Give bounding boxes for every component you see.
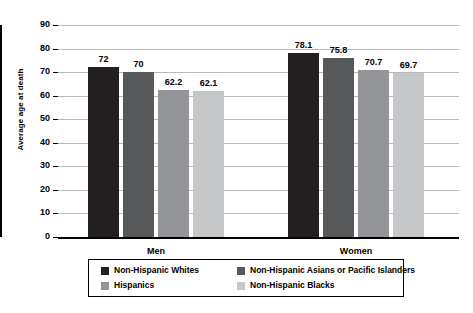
legend-item[interactable]: Non-Hispanic Asians or Pacific Islanders (237, 266, 415, 275)
y-axis-tick-label: 30 (18, 161, 50, 170)
y-axis-tick-label: 50 (18, 114, 50, 123)
legend-swatch-icon (237, 282, 245, 290)
bar-chart: Average age at death 0102030405060708090… (0, 0, 473, 313)
bar (123, 72, 154, 237)
x-axis-group-label: Men (58, 246, 254, 256)
legend-item[interactable]: Non-Hispanic Whites (101, 266, 199, 275)
y-axis-tick (53, 237, 58, 238)
legend-swatch-icon (237, 267, 245, 275)
bar-value-label: 70 (115, 59, 162, 69)
x-axis-group-label: Women (258, 246, 454, 256)
y-axis-tick-label: 60 (18, 91, 50, 100)
bar (358, 70, 389, 237)
bar (323, 58, 354, 237)
legend-swatch-icon (101, 282, 109, 290)
bar-value-label: 62.1 (185, 78, 232, 88)
y-axis-tick-label: 70 (18, 67, 50, 76)
bar (88, 67, 119, 237)
y-axis-tick-label: 80 (18, 44, 50, 53)
bar (288, 53, 319, 237)
y-axis-line (0, 25, 2, 237)
gridline (58, 25, 459, 26)
bar-value-label: 69.7 (385, 60, 432, 70)
bar (193, 91, 224, 237)
bar (393, 73, 424, 237)
y-axis-tick-label: 20 (18, 185, 50, 194)
legend-label: Non-Hispanic Blacks (250, 281, 335, 290)
legend-item[interactable]: Hispanics (101, 281, 154, 290)
legend-label: Hispanics (114, 281, 154, 290)
x-axis-line (58, 237, 459, 239)
y-axis-tick-label: 10 (18, 208, 50, 217)
legend-item[interactable]: Non-Hispanic Blacks (237, 281, 335, 290)
legend-label: Non-Hispanic Whites (114, 266, 199, 275)
legend: Non-Hispanic WhitesNon-Hispanic Asians o… (88, 259, 404, 297)
bar-value-label: 75.8 (315, 45, 362, 55)
legend-swatch-icon (101, 267, 109, 275)
gridline (58, 49, 459, 50)
bar (158, 90, 189, 237)
y-axis-tick-label: 0 (18, 232, 50, 241)
y-axis-tick-label: 40 (18, 138, 50, 147)
y-axis-tick-label: 90 (18, 20, 50, 29)
legend-label: Non-Hispanic Asians or Pacific Islanders (250, 266, 415, 275)
